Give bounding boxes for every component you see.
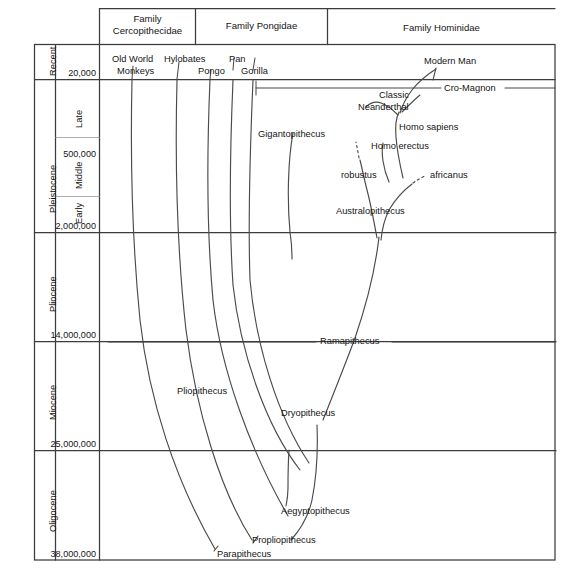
epoch-label-pliocene: Pliocene xyxy=(48,276,58,312)
taxon-label-monkeys: Monkeys xyxy=(117,66,154,76)
taxon-label-robustus: robustus xyxy=(341,170,377,180)
header-family-pongidae: Family Pongidae xyxy=(196,20,327,32)
taxon-label-hylobates: Hylobates xyxy=(164,54,205,64)
header-family-hominidae: Family Hominidae xyxy=(328,22,555,34)
epoch-label-oligocene: Oligocene xyxy=(48,490,58,532)
epoch-label-miocene: Miocene xyxy=(48,385,58,420)
taxon-label-aegyptopithecus: Aegyptopithecus xyxy=(281,506,350,516)
taxon-label-ramapithecus: Ramapithecus xyxy=(320,336,379,346)
taxon-label-dryopithecus: Dryopithecus xyxy=(281,408,335,418)
scale-value-2000000: 2,000,000 xyxy=(20,221,96,231)
lineage-aegyptopithecus xyxy=(286,450,289,506)
phylogenetic-chart: Family Cercopithecidae Family Pongidae F… xyxy=(0,0,562,573)
taxon-label-neanderthal: Neanderthal xyxy=(358,102,409,112)
taxon-label-pan: Pan xyxy=(229,54,246,64)
scale-value-38000000: 38,000,000 xyxy=(10,549,96,559)
taxon-label-old-world: Old World xyxy=(112,54,153,64)
taxon-label-parapithecus: Parapithecus xyxy=(217,549,271,559)
lineage-robustus-dashed xyxy=(356,142,359,158)
header-family-cercopithecidae: Family Cercopithecidae xyxy=(100,13,195,36)
header-line-1: Family Hominidae xyxy=(328,22,555,34)
lineage-africanus-dashed xyxy=(413,176,425,183)
lineage-gigantopithecus xyxy=(288,133,293,259)
lineage-ramapithecus xyxy=(323,237,379,420)
header-line-2: Cercopithecidae xyxy=(100,25,195,37)
subdivision-label-middle: Middle xyxy=(74,162,84,189)
taxon-label-pongo: Pongo xyxy=(198,66,225,76)
taxon-label-gigantopithecus: Gigantopithecus xyxy=(258,129,325,139)
taxon-label-cro-magnon: Cro-Magnon xyxy=(444,83,496,93)
taxon-label-pliopithecus: Pliopithecus xyxy=(177,386,227,396)
taxon-label-classic: Classic xyxy=(379,90,409,100)
taxon-label-modern-man: Modern Man xyxy=(424,56,476,66)
taxon-label-africanus: africanus xyxy=(430,170,468,180)
taxon-label-homo-erectus: Homo erectus xyxy=(371,141,429,151)
lineage-dryopithecus-trunk xyxy=(291,425,317,540)
epoch-label-pleistocene: Pleistocene xyxy=(48,165,58,213)
scale-value-500000: 500,000 xyxy=(20,149,96,159)
header-line-1: Family Pongidae xyxy=(196,20,327,32)
scale-value-25000000: 25,000,000 xyxy=(10,439,96,449)
taxon-label-australopithecus: Australopithecus xyxy=(336,206,405,216)
scale-value-20000: 20,000 xyxy=(20,68,96,78)
subdivision-label-late: Late xyxy=(74,110,84,128)
taxon-label-homo-sapiens: Homo sapiens xyxy=(399,122,458,132)
header-line-1: Family xyxy=(100,13,195,25)
taxon-label-propliopithecus: Propliopithecus xyxy=(252,535,316,545)
taxon-label-gorilla: Gorilla xyxy=(241,66,268,76)
scale-value-14000000: 14,000,000 xyxy=(10,330,96,340)
lineage-old-world-monkeys xyxy=(131,80,215,549)
